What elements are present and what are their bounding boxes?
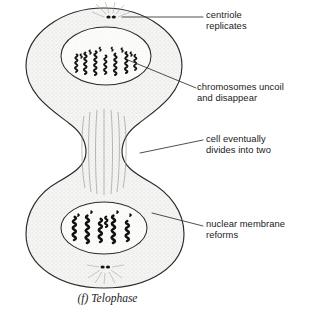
- telophase-figure: [0, 0, 309, 321]
- label-chromosomes-uncoil-and-disappear: chromosomes uncoil and disappear: [197, 81, 284, 103]
- label-cell-eventually-divides-into-two: cell eventually divides into two: [206, 133, 271, 155]
- figure-caption: (f) Telophase: [0, 292, 215, 304]
- label-centriole-replicates: centriole replicates: [206, 9, 247, 31]
- label-nuclear-membrane-reforms: nuclear membrane reforms: [206, 218, 285, 240]
